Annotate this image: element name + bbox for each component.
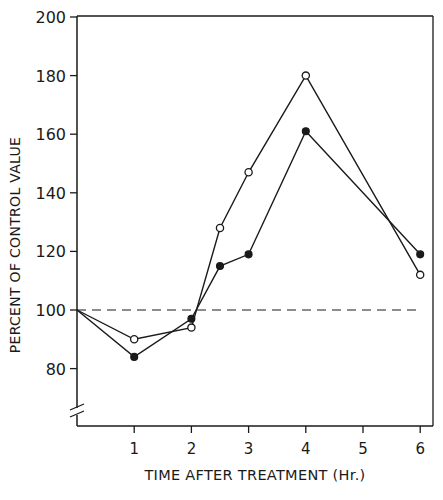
y-tick: 80	[46, 360, 77, 379]
x-tick: 1	[129, 426, 139, 458]
x-axis-label: TIME AFTER TREATMENT (Hr.)	[143, 467, 365, 483]
open-circle-marker-icon	[302, 72, 309, 79]
open-circle-marker-icon	[216, 224, 223, 231]
y-tick-label: 140	[35, 184, 66, 203]
x-tick-label: 5	[358, 440, 368, 458]
open-circle-marker-icon	[188, 324, 195, 331]
y-tick: 100	[35, 301, 77, 320]
open-circle-marker-icon	[417, 271, 424, 278]
line-chart: 80100120140160180200 123456 TIME AFTER T…	[0, 0, 443, 500]
series-layer	[77, 72, 424, 360]
series-line	[77, 131, 420, 357]
y-tick-label: 180	[35, 67, 66, 86]
x-tick-label: 6	[415, 440, 425, 458]
y-tick: 140	[35, 184, 77, 203]
y-tick: 200	[35, 8, 77, 27]
x-tick-label: 1	[129, 440, 139, 458]
filled-circle-marker-icon	[188, 315, 195, 322]
y-tick-label: 100	[35, 301, 66, 320]
x-tick: 3	[244, 426, 254, 458]
x-axis-ticks: 123456	[129, 426, 425, 458]
y-tick: 180	[35, 67, 77, 86]
y-tick: 160	[35, 125, 77, 144]
y-tick-label: 200	[35, 8, 66, 27]
x-tick-label: 2	[187, 440, 197, 458]
y-tick-label: 120	[35, 242, 66, 261]
plot-frame	[70, 16, 433, 426]
filled-circle-marker-icon	[417, 251, 424, 258]
x-tick: 2	[187, 426, 197, 458]
series-open-circles	[77, 72, 424, 343]
open-circle-marker-icon	[245, 169, 252, 176]
filled-circle-marker-icon	[245, 251, 252, 258]
x-tick-label: 3	[244, 440, 254, 458]
y-axis-label: PERCENT OF CONTROL VALUE	[7, 137, 23, 353]
y-tick-label: 80	[46, 360, 66, 379]
y-tick: 120	[35, 242, 77, 261]
x-tick: 4	[301, 426, 311, 458]
open-circle-marker-icon	[131, 336, 138, 343]
filled-circle-marker-icon	[217, 263, 224, 270]
filled-circle-marker-icon	[131, 353, 138, 360]
y-axis-ticks: 80100120140160180200	[35, 8, 77, 379]
x-tick: 6	[415, 426, 425, 458]
x-tick-label: 4	[301, 440, 311, 458]
filled-circle-marker-icon	[302, 128, 309, 135]
x-tick: 5	[358, 426, 368, 458]
series-line	[77, 76, 420, 340]
series-filled-circles	[77, 128, 424, 360]
y-tick-label: 160	[35, 125, 66, 144]
